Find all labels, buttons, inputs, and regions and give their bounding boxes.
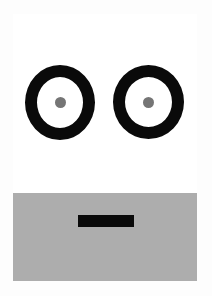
pupil-left [55, 97, 66, 108]
mouth-bar [78, 215, 134, 227]
pupil-right [143, 97, 154, 108]
face-card [13, 14, 197, 281]
page-root [0, 0, 212, 296]
lower-panel [13, 193, 197, 281]
